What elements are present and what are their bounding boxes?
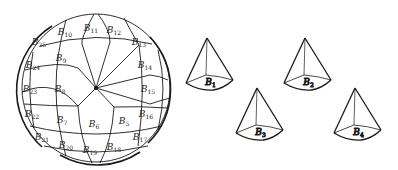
latitude-line-4 [24,104,78,106]
patch-label-b25: B25 [31,37,46,48]
spoke-line [82,44,96,88]
cone-edge-hidden [354,88,355,125]
patch-label-b9: B9 [55,53,67,64]
spoke-line [78,68,96,88]
patch-label-b14: B14 [137,60,152,71]
latitude-line-2b [150,75,168,80]
patch-label-b11: B11 [83,23,98,34]
cone-edge-hidden [256,88,257,125]
figure-canvas: B5B6B7B8B9B10B11B12B13B14B15B16B17B18B19… [0,0,398,170]
patch-label-b15: B15 [140,84,155,95]
cone-edge [257,88,283,130]
patch-label-b19: B19 [82,145,97,156]
cone-label-b4: B4 [352,127,364,138]
patch-label-b7: B7 [56,115,68,126]
patch-labels: B5B6B7B8B9B10B11B12B13B14B15B16B17B18B19… [22,23,155,156]
patch-label-b24: B24 [25,60,40,71]
patch-label-b18: B18 [106,142,121,153]
meridian-line-7 [100,107,114,163]
hub-point [94,86,97,89]
patch-label-b8: B8 [54,84,66,95]
patch-label-b13: B13 [131,37,146,48]
patch-label-b6: B6 [88,119,100,130]
cone-group: B1B2B3B4 [186,38,381,140]
patch-label-b20: B20 [58,140,73,151]
latitude-line-4b [114,107,168,108]
sphere-partition-figure: B5B6B7B8B9B10B11B12B13B14B15B16B17B18B19… [0,0,398,170]
cone-edge [207,38,233,80]
patch-label-b16: B16 [138,109,153,120]
cone-label-b3: B3 [254,127,266,138]
patch-label-b5: B5 [118,116,130,127]
cone-label-b1: B1 [204,77,215,88]
cone-edge-hidden [206,38,207,75]
cone-edge-hidden [304,38,305,75]
latitude-line-3b [150,98,170,104]
patch-label-b12: B12 [106,25,121,36]
patch-label-b21: B21 [34,132,49,143]
cone-label-b2: B2 [302,77,314,88]
cone-edge [305,38,331,80]
cone-edge [355,88,381,130]
meridian-line-9 [158,50,163,130]
spoke-line [78,88,96,106]
patch-label-b10: B10 [57,27,72,38]
